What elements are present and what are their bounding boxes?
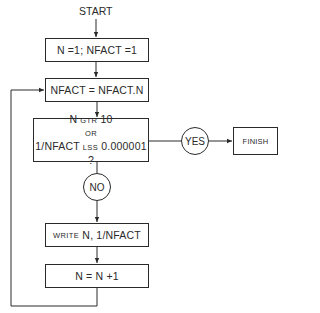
decision-line-1: N GTR 10 bbox=[69, 113, 112, 127]
init-box: N =1; NFACT =1 bbox=[45, 38, 149, 62]
compute-text: NFACT = NFACT.N bbox=[51, 84, 144, 96]
increment-box: N = N +1 bbox=[45, 264, 149, 288]
decision-line-3: 1/NFACT LSS 0.000001 ? bbox=[34, 140, 148, 167]
no-connector: NO bbox=[83, 173, 111, 201]
finish-box: FINISH bbox=[233, 127, 278, 155]
init-text: N =1; NFACT =1 bbox=[57, 44, 137, 56]
start-label: START bbox=[79, 5, 112, 17]
write-box: WRITE N, 1/NFACT bbox=[45, 223, 149, 247]
decision-line-2: OR bbox=[85, 127, 97, 140]
yes-connector: YES bbox=[181, 127, 209, 155]
compute-box: NFACT = NFACT.N bbox=[45, 78, 149, 102]
decision-box: N GTR 10 OR 1/NFACT LSS 0.000001 ? bbox=[33, 118, 149, 162]
